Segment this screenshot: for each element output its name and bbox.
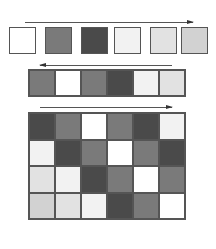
grid-cell-r3-c3 xyxy=(81,166,107,193)
grid-cell-r2-c2 xyxy=(55,140,81,167)
strip-cell-3 xyxy=(81,70,107,96)
grid-cell-r1-c4 xyxy=(107,113,133,140)
color-grid xyxy=(28,112,186,220)
grid-cell-r4-c4 xyxy=(107,193,133,220)
grid-cell-r4-c6 xyxy=(159,193,185,220)
grid-cell-r2-c1 xyxy=(29,140,55,167)
middle-arrow xyxy=(40,65,172,66)
grid-cell-r3-c4 xyxy=(107,166,133,193)
grid-cell-r1-c2 xyxy=(55,113,81,140)
top-box-6 xyxy=(181,27,208,54)
top-box-2 xyxy=(45,27,72,54)
grid-cell-r3-c1 xyxy=(29,166,55,193)
top-box-1 xyxy=(9,27,36,54)
top-box-5 xyxy=(150,27,177,54)
grid-cell-r1-c5 xyxy=(133,113,159,140)
strip-cell-5 xyxy=(133,70,159,96)
top-box-3 xyxy=(81,27,108,54)
grid-cell-r4-c2 xyxy=(55,193,81,220)
strip-cell-6 xyxy=(159,70,185,96)
grid-cell-r3-c5 xyxy=(133,166,159,193)
grid-arrow xyxy=(40,107,172,108)
grid-cell-r2-c4 xyxy=(107,140,133,167)
strip-cell-4 xyxy=(107,70,133,96)
grid-cell-r2-c6 xyxy=(159,140,185,167)
strip-cell-2 xyxy=(55,70,81,96)
grid-cell-r1-c3 xyxy=(81,113,107,140)
top-arrow xyxy=(25,22,193,23)
grid-cell-r4-c3 xyxy=(81,193,107,220)
grid-cell-r4-c1 xyxy=(29,193,55,220)
grid-cell-r2-c5 xyxy=(133,140,159,167)
arrow-head-right-icon xyxy=(166,105,173,109)
grid-cell-r3-c6 xyxy=(159,166,185,193)
grid-cell-r2-c3 xyxy=(81,140,107,167)
grid-cell-r1-c6 xyxy=(159,113,185,140)
grid-cell-r3-c2 xyxy=(55,166,81,193)
grid-cell-r1-c1 xyxy=(29,113,55,140)
arrow-head-right-icon xyxy=(187,20,194,24)
top-box-4 xyxy=(114,27,141,54)
grid-cell-r4-c5 xyxy=(133,193,159,220)
middle-strip xyxy=(28,69,186,97)
arrow-head-left-icon xyxy=(39,63,46,67)
strip-cell-1 xyxy=(29,70,55,96)
